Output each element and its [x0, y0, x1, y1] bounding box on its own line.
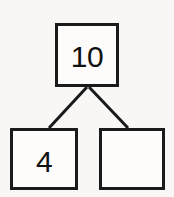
connector-whole-to-left-part [49, 87, 87, 128]
number-bond-worksheet-figure: 10 4 [0, 0, 174, 197]
part-box-right-empty[interactable] [101, 130, 164, 189]
part-box-left-value: 4 [36, 145, 52, 178]
number-bond-diagram: 10 4 [0, 0, 174, 197]
whole-box-value: 10 [71, 40, 103, 73]
connector-whole-to-right-part [89, 87, 128, 128]
